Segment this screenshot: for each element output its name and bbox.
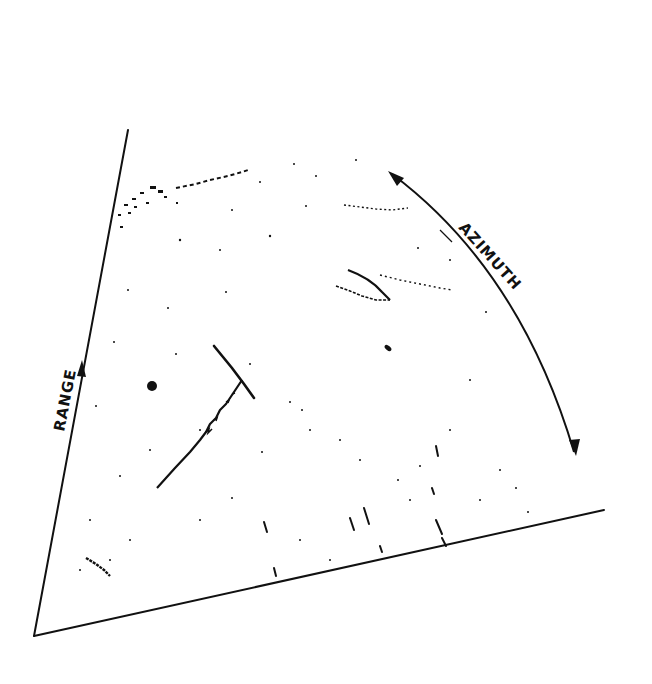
- range-label: RANGE: [50, 367, 80, 433]
- azimuth-label: AZIMUTH: [455, 219, 525, 294]
- noise-dots: [79, 159, 529, 571]
- azimuth-underline: [440, 230, 452, 242]
- sector-boundary: [34, 130, 604, 636]
- azimuth-arc: [392, 174, 574, 452]
- bottom-edge-line: [34, 510, 604, 636]
- range-axis-line: [34, 130, 128, 636]
- radar-echoes: [79, 159, 529, 576]
- streak-echo-right: [380, 275, 452, 290]
- small-blob-right: [384, 344, 393, 353]
- azimuth-arrow-bottom-icon: [569, 439, 580, 456]
- blob-left: [147, 381, 157, 391]
- azimuth-arrow-top-icon: [388, 171, 404, 186]
- clutter-bottom-streaks: [264, 446, 446, 576]
- radar-sector-diagram: RANGE AZIMUTH: [0, 0, 652, 684]
- line-target-long: [157, 380, 242, 488]
- clutter-band-upper-right: [344, 205, 408, 210]
- clutter-band-top: [118, 170, 248, 228]
- clutter-lower-left: [86, 558, 110, 576]
- v-shaped-echo: [336, 270, 390, 300]
